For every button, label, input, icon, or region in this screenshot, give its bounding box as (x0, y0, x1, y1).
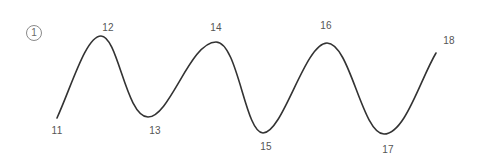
point-label-12: 12 (102, 23, 114, 33)
wave-path (57, 36, 436, 134)
wave-diagram: 1 11 12 13 14 15 16 17 18 (0, 0, 480, 164)
point-label-16: 16 (320, 21, 332, 31)
point-label-14: 14 (210, 23, 222, 33)
point-label-18: 18 (443, 36, 455, 46)
point-label-13: 13 (149, 126, 161, 136)
point-label-11: 11 (52, 126, 63, 136)
point-label-17: 17 (382, 145, 394, 155)
wave-curve (0, 0, 480, 164)
point-label-15: 15 (260, 142, 272, 152)
